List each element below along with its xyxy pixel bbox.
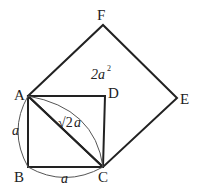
label-e: E	[180, 91, 189, 107]
label-a: A	[14, 87, 25, 103]
diagonal-ac	[28, 96, 103, 167]
side-bc-label: a	[61, 171, 68, 186]
area-exponent: 2	[107, 64, 111, 73]
geometry-diagram: A B C D E F a a √2 a 2a 2	[0, 0, 199, 194]
area-label: 2a	[91, 67, 105, 82]
brace-ab	[18, 96, 28, 167]
label-f: F	[97, 7, 105, 23]
diagonal-root-label: √2	[58, 115, 73, 130]
label-b: B	[14, 169, 24, 185]
label-c: C	[98, 169, 108, 185]
label-d: D	[108, 85, 119, 101]
side-ab-label: a	[12, 123, 19, 138]
diagonal-a-label: a	[74, 115, 81, 130]
